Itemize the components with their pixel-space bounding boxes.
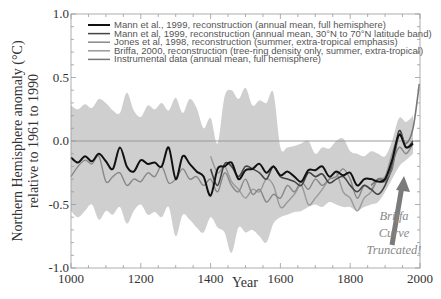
y-tick-label: 0.5 [53,70,69,85]
legend: Mann et al., 1999, reconstruction (annua… [88,19,432,64]
x-tick-label: 1600 [267,271,293,286]
y-tick-labels: 1.00.50.0-0.5-1.0 [48,6,69,275]
briffa-truncated-annotation: BriffaCurveTruncated! [367,209,422,257]
x-tick-label: 1800 [337,271,363,286]
annotation-text: Curve [379,226,410,240]
chart: 1.00.50.0-0.5-1.0 1000120014001600180020… [0,0,441,299]
x-tick-label: 1400 [198,271,224,286]
legend-label: Instrumental data (annual mean, full hem… [114,53,321,64]
y-tick-label: -0.5 [48,197,69,212]
y-axis-subtitle: relative to 1961 to 1990 [26,74,41,208]
x-tick-label: 2000 [407,271,433,286]
x-axis-title: Year [232,275,258,290]
annotation-text: Truncated! [367,243,422,257]
y-tick-label: 1.0 [53,6,69,21]
y-tick-label: 0.0 [53,133,69,148]
x-tick-label: 1200 [128,271,154,286]
annotation-text: Briffa [379,209,408,223]
y-axis-title: Northern Hemisphere anomaly (°C) [10,40,26,241]
x-tick-label: 1000 [58,271,84,286]
